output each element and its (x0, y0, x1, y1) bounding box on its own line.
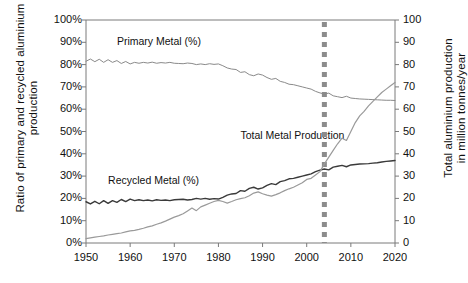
total-metal-production-line (86, 82, 395, 238)
primary-metal-line (86, 59, 395, 100)
recycled-metal-line (86, 160, 395, 203)
